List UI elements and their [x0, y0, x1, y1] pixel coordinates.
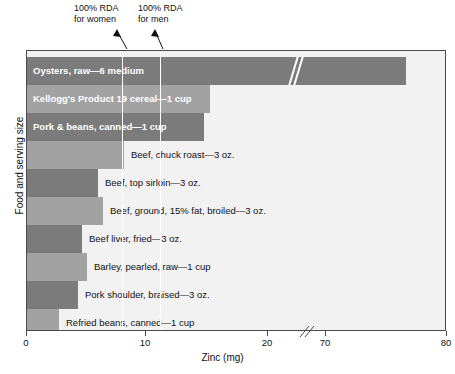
rda-women-arrow-icon	[95, 26, 135, 50]
bar-row: Beef liver, fried—3 oz.	[27, 225, 445, 253]
bar	[27, 169, 98, 197]
axis-break-icon	[296, 325, 318, 339]
bar-label: Kellogg's Product 19 cereal—1 cup	[33, 85, 192, 113]
rda-men-line2: for men	[138, 14, 183, 25]
bar-label: Barley, pearled, raw—1 cup	[94, 253, 211, 281]
bar	[27, 253, 87, 281]
bar	[27, 281, 78, 309]
rda-men-arrow-icon	[133, 26, 173, 50]
bar-label: Pork & beans, canned—1 cup	[33, 113, 167, 141]
bar	[27, 197, 103, 225]
bar-label: Beef, ground, 15% fat, broiled—3 oz.	[110, 197, 266, 225]
x-tick	[145, 331, 146, 336]
rda-women-annotation: 100% RDA for women	[74, 3, 119, 24]
x-tick	[26, 331, 27, 336]
x-axis-title: Zinc (mg)	[0, 352, 455, 363]
bar-label: Beef, chuck roast—3 oz.	[131, 141, 235, 169]
bar-row: Barley, pearled, raw—1 cup	[27, 253, 445, 281]
bar-row: Oysters, raw—6 medium	[27, 57, 445, 85]
x-tick-label: 20	[262, 337, 273, 348]
x-tick-label: 0	[23, 337, 28, 348]
bar-label: Refried beans, canned—1 cup	[66, 309, 194, 331]
bar-row: Pork & beans, canned—1 cup	[27, 113, 445, 141]
x-tick	[325, 331, 326, 336]
bar-label: Beef liver, fried—3 oz.	[89, 225, 182, 253]
plot-area: Oysters, raw—6 medium Kellogg's Product …	[26, 50, 446, 331]
x-axis-title-text: Zinc (mg)	[201, 352, 243, 363]
bar-label: Beef, top sirloin—3 oz.	[105, 169, 201, 197]
rda-line-women	[122, 51, 123, 331]
x-axis-ticks	[26, 331, 446, 337]
x-tick-label: 70	[320, 337, 331, 348]
bar-row: Refried beans, canned—1 cup	[27, 309, 445, 331]
bar-row: Beef, ground, 15% fat, broiled—3 oz.	[27, 197, 445, 225]
bar	[27, 225, 82, 253]
bar-row: Beef, chuck roast—3 oz.	[27, 141, 445, 169]
bar	[27, 141, 124, 169]
bar-row: Beef, top sirloin—3 oz.	[27, 169, 445, 197]
bar	[27, 309, 59, 331]
bar-label: Pork shoulder, braised—3 oz.	[85, 281, 210, 309]
x-tick	[446, 331, 447, 336]
rda-line-men	[160, 51, 161, 331]
y-axis-title: Food and serving size	[14, 91, 25, 241]
rda-women-line2: for women	[74, 14, 119, 25]
x-tick-label: 10	[140, 337, 151, 348]
bar-label: Oysters, raw—6 medium	[33, 57, 144, 85]
rda-women-line1: 100% RDA	[74, 3, 119, 14]
rda-men-annotation: 100% RDA for men	[138, 3, 183, 24]
x-tick	[267, 331, 268, 336]
bar-row: Kellogg's Product 19 cereal—1 cup	[27, 85, 445, 113]
rda-men-line1: 100% RDA	[138, 3, 183, 14]
zinc-bar-chart: 100% RDA for women 100% RDA for men Oyst…	[0, 0, 455, 374]
bar-row: Pork shoulder, braised—3 oz.	[27, 281, 445, 309]
x-tick-label: 80	[441, 337, 452, 348]
